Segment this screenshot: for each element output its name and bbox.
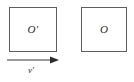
velocity-arrow-icon	[6, 54, 62, 66]
frame-box-unprimed: O	[81, 7, 127, 52]
velocity-arrow-label: v′	[18, 66, 44, 75]
frame-label-primed: O′	[10, 24, 56, 35]
frame-label-unprimed: O	[82, 24, 126, 35]
frame-box-primed: O′	[9, 7, 57, 52]
figure-canvas: O′ O v′	[0, 0, 134, 82]
